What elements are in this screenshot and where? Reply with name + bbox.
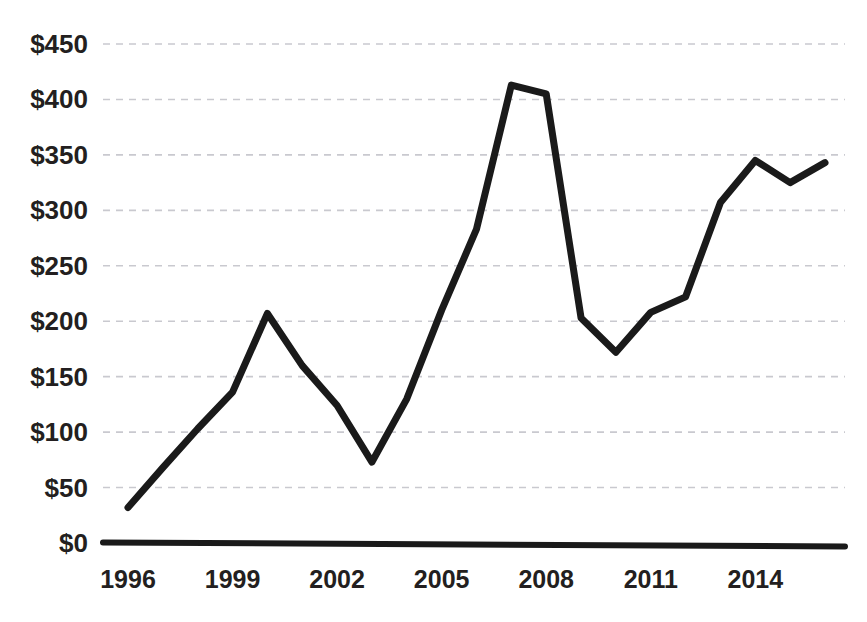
- x-axis-tick-label: 2014: [727, 565, 783, 593]
- y-axis-tick-label: $150: [30, 362, 88, 392]
- y-axis-tick-label: $200: [30, 306, 88, 336]
- x-axis-tick-label: 2008: [518, 565, 574, 593]
- x-axis-tick-label: 1999: [205, 565, 261, 593]
- x-axis-tick-labels: 1996199920022005200820112014: [100, 565, 783, 593]
- x-axis-tick-label: 1996: [100, 565, 156, 593]
- chart-canvas: $450$400$350$300$250$200$150$100$50$0 19…: [0, 0, 867, 622]
- x-axis-tick-label: 2002: [309, 565, 365, 593]
- y-axis-tick-label: $0: [59, 528, 88, 558]
- x-axis-tick-label: 2011: [624, 565, 678, 593]
- y-axis-tick-labels: $450$400$350$300$250$200$150$100$50$0: [30, 29, 88, 558]
- line-chart-figure: $450$400$350$300$250$200$150$100$50$0 19…: [0, 0, 867, 622]
- y-axis-tick-label: $50: [45, 473, 88, 503]
- y-axis-tick-label: $350: [30, 140, 88, 170]
- y-axis-tick-label: $250: [30, 251, 88, 281]
- y-axis-tick-label: $100: [30, 417, 88, 447]
- y-axis-tick-label: $300: [30, 195, 88, 225]
- data-series-line: [128, 85, 825, 507]
- y-axis-tick-label: $450: [30, 29, 88, 59]
- x-axis-tick-label: 2005: [414, 565, 470, 593]
- y-axis-tick-label: $400: [30, 84, 88, 114]
- gridlines: [103, 44, 845, 488]
- x-axis-baseline: [103, 543, 845, 547]
